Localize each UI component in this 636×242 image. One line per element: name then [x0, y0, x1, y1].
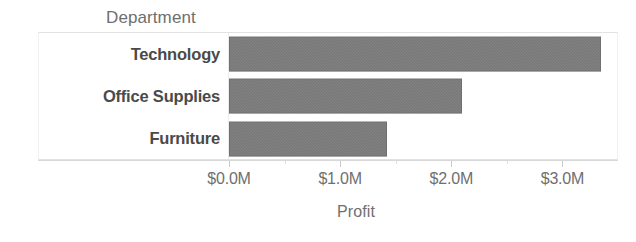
bar-technology[interactable] [229, 37, 601, 72]
x-axis-tick [229, 161, 230, 167]
x-axis-tick-label: $2.0M [430, 170, 473, 188]
bar-track-furniture [229, 118, 617, 160]
x-axis-minor-tick [396, 161, 397, 164]
bar-track-office-supplies [229, 75, 617, 117]
category-label-office-supplies: Office Supplies [39, 87, 229, 106]
bar-rows: Technology Office Supplies Furniture [39, 33, 617, 159]
x-axis-minor-tick [285, 161, 286, 164]
plot-area: Technology Office Supplies Furniture [38, 32, 618, 160]
x-axis-tick [340, 161, 341, 167]
x-axis-title: Profit [38, 203, 618, 221]
x-axis-tick-label: $1.0M [318, 170, 361, 188]
table-row[interactable]: Office Supplies [39, 75, 617, 117]
category-label-technology: Technology [39, 45, 229, 64]
bar-furniture[interactable] [229, 121, 387, 156]
x-axis-title-label: Profit [281, 203, 375, 221]
table-row[interactable]: Furniture [39, 118, 617, 160]
category-label-furniture: Furniture [39, 129, 229, 148]
x-axis-tick [451, 161, 452, 167]
x-axis: $0.0M$1.0M$2.0M$3.0M [38, 160, 618, 206]
x-axis-tick [562, 161, 563, 167]
x-axis-tick-label: $0.0M [207, 170, 250, 188]
x-axis-line [38, 160, 618, 161]
table-row[interactable]: Technology [39, 33, 617, 75]
bar-office-supplies[interactable] [229, 79, 462, 114]
x-axis-tick-label: $3.0M [541, 170, 584, 188]
field-header-department: Department [38, 6, 230, 30]
bar-chart: Department Technology Office Supplies Fu… [0, 0, 636, 242]
bar-track-technology [229, 33, 617, 75]
x-axis-minor-tick [507, 161, 508, 164]
